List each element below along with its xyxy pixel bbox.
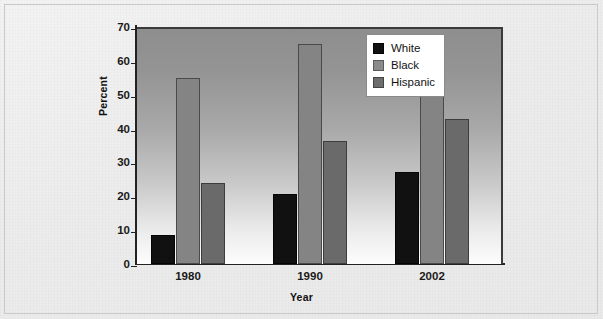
legend-swatch-black-icon <box>373 60 384 71</box>
x-tick-label-1980: 1980 <box>175 270 201 282</box>
y-tick-label: 10 <box>117 224 130 236</box>
bar-hispanic-2002 <box>445 119 469 264</box>
legend-item-black[interactable]: Black <box>373 57 435 74</box>
y-tick-mark <box>131 164 137 165</box>
y-tick-label: 30 <box>117 156 130 168</box>
y-tick-label: 0 <box>124 258 130 270</box>
y-tick-mark <box>131 198 137 199</box>
chart-figure: Percent 010203040506070 198019902002 Yea… <box>0 0 603 319</box>
y-tick-mark <box>131 29 137 30</box>
legend-label: Black <box>391 60 419 72</box>
legend-swatch-white-icon <box>373 43 384 54</box>
plot-area <box>137 27 503 264</box>
legend-item-white[interactable]: White <box>373 40 435 57</box>
legend-label: Hispanic <box>391 77 435 89</box>
y-tick-mark <box>131 131 137 132</box>
y-tick-mark <box>131 266 137 267</box>
y-tick-label: 70 <box>117 21 130 33</box>
y-tick-mark <box>131 63 137 64</box>
legend-item-hispanic[interactable]: Hispanic <box>373 74 435 91</box>
legend-label: White <box>391 43 420 55</box>
bar-white-2002 <box>395 172 419 264</box>
bar-black-1990 <box>298 44 322 264</box>
x-tick-label-1990: 1990 <box>297 270 323 282</box>
bar-hispanic-1980 <box>201 183 225 264</box>
y-tick-mark <box>131 232 137 233</box>
x-axis-title: Year <box>0 291 603 303</box>
legend-swatch-hispanic-icon <box>373 77 384 88</box>
bar-hispanic-1990 <box>323 141 347 264</box>
y-axis-tick-labels: 010203040506070 <box>104 27 130 264</box>
bar-black-1980 <box>176 78 200 264</box>
y-tick-mark <box>131 97 137 98</box>
bar-white-1980 <box>151 235 175 264</box>
x-tick-label-2002: 2002 <box>419 270 445 282</box>
y-tick-label: 40 <box>117 123 130 135</box>
chart-legend: WhiteBlackHispanic <box>366 34 445 97</box>
bar-white-1990 <box>273 194 297 264</box>
y-tick-label: 20 <box>117 190 130 202</box>
y-tick-label: 50 <box>117 89 130 101</box>
y-tick-label: 60 <box>117 55 130 67</box>
